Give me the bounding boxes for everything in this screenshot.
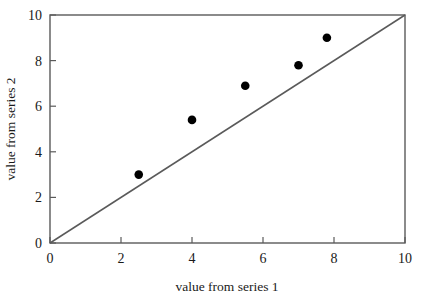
y-axis-title: value from series 2 bbox=[3, 77, 18, 180]
x-tick-label: 8 bbox=[331, 251, 338, 266]
y-tick-label: 0 bbox=[35, 236, 42, 251]
data-point bbox=[134, 170, 143, 179]
y-tick-label: 10 bbox=[28, 8, 42, 23]
data-point bbox=[241, 81, 250, 90]
x-tick-label: 4 bbox=[189, 251, 196, 266]
x-tick-label: 2 bbox=[118, 251, 125, 266]
plot-canvas: 0 2 4 6 8 10 0 2 4 6 8 10 value from ser… bbox=[0, 0, 422, 303]
y-tick-label: 8 bbox=[35, 54, 42, 69]
y-tick-label: 2 bbox=[35, 190, 42, 205]
x-tick-label: 10 bbox=[398, 251, 412, 266]
y-tick-label: 6 bbox=[35, 99, 42, 114]
data-point bbox=[294, 61, 303, 70]
data-point bbox=[323, 34, 332, 43]
x-tick-label: 0 bbox=[47, 251, 54, 266]
y-tick-label: 4 bbox=[35, 145, 42, 160]
x-axis-title: value from series 1 bbox=[175, 279, 278, 294]
scatter-chart: 0 2 4 6 8 10 0 2 4 6 8 10 value from ser… bbox=[0, 0, 422, 303]
data-point bbox=[188, 116, 197, 125]
x-tick-label: 6 bbox=[260, 251, 267, 266]
